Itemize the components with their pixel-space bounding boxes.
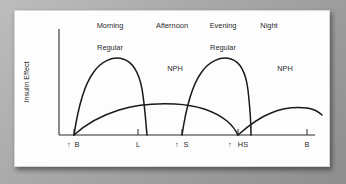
- y-axis-label: Insulin Effect: [22, 61, 31, 102]
- tick-label-text: S: [184, 140, 189, 149]
- injection-arrow-icon: ↑: [228, 140, 232, 149]
- curve-label-nph-evening: NPH: [277, 64, 293, 73]
- curve-label-regular-evening: Regular: [210, 43, 236, 52]
- tick-label-b-evening: B: [305, 140, 310, 149]
- curve-regular-evening: [182, 58, 251, 135]
- phase-label-evening: Evening: [210, 21, 237, 30]
- curve-label-nph-morning: NPH: [167, 64, 183, 73]
- curve-nph-morning: [74, 104, 238, 135]
- curve-regular-morning: [74, 58, 147, 135]
- phase-label-afternoon: Afternoon: [156, 21, 188, 30]
- tick-label-l: L: [136, 140, 140, 149]
- tick-label-s: ↑ S: [175, 140, 188, 149]
- tick-label-text: B: [75, 140, 80, 149]
- injection-arrow-icon: ↑: [175, 140, 179, 149]
- image-frame: Insulin Effect Morning Afternoon Evening…: [0, 0, 346, 184]
- chart-paper: Insulin Effect Morning Afternoon Evening…: [14, 10, 330, 167]
- phase-label-morning: Morning: [97, 21, 124, 30]
- chart-canvas: Insulin Effect Morning Afternoon Evening…: [15, 11, 329, 166]
- injection-arrow-icon: ↑: [67, 140, 71, 149]
- tick-label-text: HS: [238, 140, 248, 149]
- tick-label-hs: ↑ HS: [228, 140, 248, 149]
- x-axis-ticks: [74, 129, 307, 135]
- insulin-effect-chart: Insulin Effect Morning Afternoon Evening…: [15, 11, 329, 166]
- tick-label-b-morning: ↑ B: [67, 140, 79, 149]
- phase-label-night: Night: [260, 21, 277, 30]
- curve-label-regular-morning: Regular: [97, 43, 123, 52]
